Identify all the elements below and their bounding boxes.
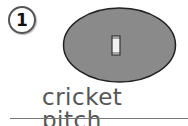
caption-label: cricket pitch (42, 86, 188, 126)
writing-line (10, 118, 188, 119)
pitch-rect (112, 36, 120, 55)
cricket-field-illustration (62, 7, 177, 83)
item-number-badge: 1 (8, 6, 36, 34)
